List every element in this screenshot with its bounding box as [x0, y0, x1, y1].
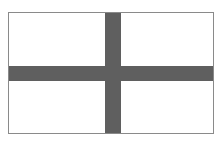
cross-flag	[8, 12, 214, 134]
cross-horizontal-bar	[9, 66, 213, 81]
